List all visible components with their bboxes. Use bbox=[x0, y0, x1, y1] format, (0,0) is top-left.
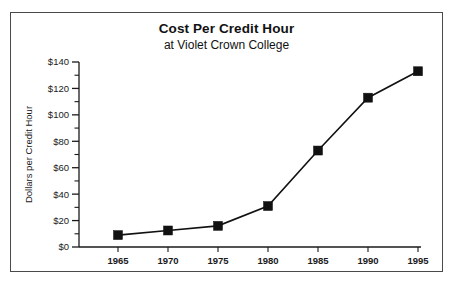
y-tick-labels: $0$20$40$60$80$100$120$140 bbox=[48, 56, 69, 252]
x-axis bbox=[79, 247, 421, 252]
svg-text:$100: $100 bbox=[48, 109, 69, 120]
y-axis-title: Dollars per Credit Hour bbox=[23, 106, 34, 203]
svg-text:1995: 1995 bbox=[407, 255, 429, 266]
svg-text:1980: 1980 bbox=[257, 255, 278, 266]
svg-text:$0: $0 bbox=[58, 241, 69, 252]
svg-text:1970: 1970 bbox=[157, 255, 178, 266]
svg-text:$80: $80 bbox=[53, 136, 69, 147]
svg-text:Dollars per Credit Hour: Dollars per Credit Hour bbox=[23, 106, 34, 203]
svg-text:$40: $40 bbox=[53, 189, 69, 200]
x-tick-labels: 1965197019751980198519901995 bbox=[107, 255, 429, 266]
svg-text:1975: 1975 bbox=[207, 255, 229, 266]
svg-text:1990: 1990 bbox=[357, 255, 378, 266]
data-series bbox=[114, 67, 423, 240]
svg-text:1965: 1965 bbox=[107, 255, 129, 266]
svg-text:$60: $60 bbox=[53, 162, 69, 173]
line-chart: $0$20$40$60$80$100$120$140 1965197019751… bbox=[0, 0, 454, 287]
svg-text:$20: $20 bbox=[53, 215, 69, 226]
svg-text:$120: $120 bbox=[48, 83, 69, 94]
svg-text:$140: $140 bbox=[48, 56, 69, 67]
svg-text:1985: 1985 bbox=[307, 255, 329, 266]
y-axis bbox=[72, 62, 79, 247]
